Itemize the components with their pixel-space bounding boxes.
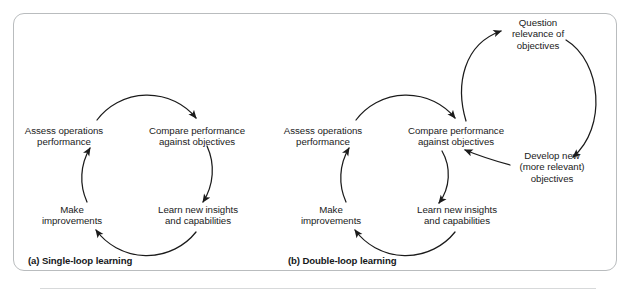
node-line: Assess operations [8,125,120,136]
node-line: improvements [26,215,118,226]
figure-container: Assess operations performance Compare pe… [0,0,631,296]
node-assess-operations-performance-b: Assess operations performance [267,125,379,148]
single-loop-cycle-arrows [82,95,213,255]
node-line: and capabilities [401,215,513,226]
node-learn-new-insights-and-capabilities-b: Learn new insights and capabilities [401,204,513,227]
node-line: Compare performance [137,125,257,136]
node-line: objectives [509,173,595,184]
arrow-improve-to-assess-b [341,148,349,202]
node-line: Question [498,17,578,28]
node-compare-performance-against-objectives-b: Compare performance against objectives [396,125,516,148]
node-line: performance [8,136,120,147]
node-line: Develop new [509,150,595,161]
node-develop-new-more-relevant-objectives: Develop new (more relevant) objectives [509,150,595,184]
arrow-improve-to-assess [82,148,90,202]
arrow-compare-to-question [462,31,501,121]
arrow-compare-to-learn-b [439,151,448,203]
node-line: Learn new insights [142,204,254,215]
node-line: performance [267,136,379,147]
arrow-compare-to-learn [203,146,212,202]
arrow-develop-to-compare [465,150,510,165]
node-line: Learn new insights [401,204,513,215]
node-line: against objectives [137,136,257,147]
caption-single-loop-learning: (a) Single-loop learning [28,255,132,266]
node-compare-performance-against-objectives: Compare performance against objectives [137,125,257,148]
node-line: Assess operations [267,125,379,136]
arrow-question-to-develop [566,40,596,157]
double-loop-inner-cycle-arrows [341,95,455,255]
node-make-improvements-b: Make improvements [285,204,377,227]
node-line: Make [285,204,377,215]
arrow-assess-to-compare [97,95,196,120]
arrow-assess-to-compare-b [356,95,455,120]
figure-baseline-rule [40,288,596,289]
node-line: objectives [498,40,578,51]
node-assess-operations-performance: Assess operations performance [8,125,120,148]
arrow-learn-to-improve-b [355,230,455,256]
node-question-relevance-of-objectives: Question relevance of objectives [498,17,578,51]
node-line: and capabilities [142,215,254,226]
node-make-improvements: Make improvements [26,204,118,227]
node-line: against objectives [396,136,516,147]
node-learn-new-insights-and-capabilities: Learn new insights and capabilities [142,204,254,227]
node-line: improvements [285,215,377,226]
arrow-learn-to-improve [96,230,196,256]
node-line: Compare performance [396,125,516,136]
node-line: Make [26,204,118,215]
caption-double-loop-learning: (b) Double-loop learning [288,255,396,266]
node-line: (more relevant) [509,161,595,172]
node-line: relevance of [498,28,578,39]
